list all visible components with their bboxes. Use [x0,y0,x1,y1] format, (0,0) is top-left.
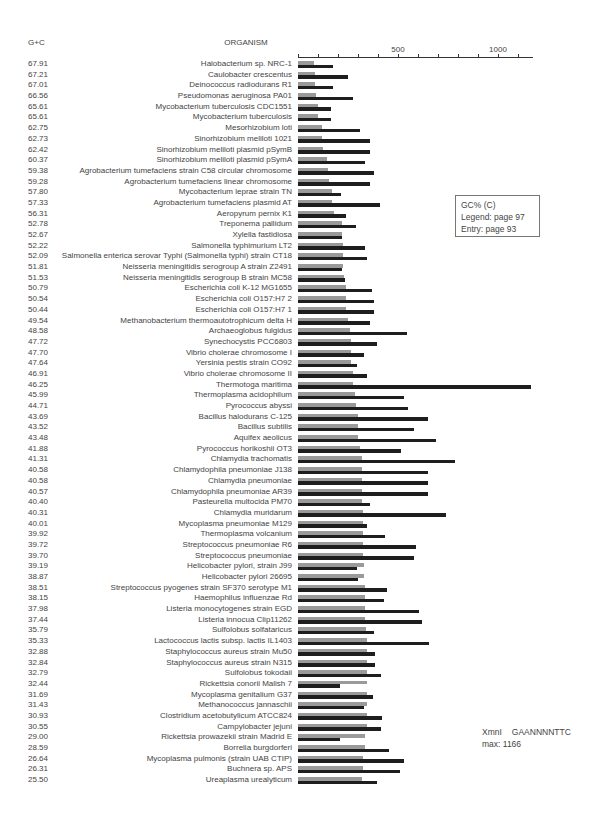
organism-name: Sinorhizobium meliloti 1021 [194,134,292,144]
organism-name: Sinorhizobium meliloti plasmid pSymA [156,155,292,165]
gc-value: 47.64 [28,358,48,368]
gc-value: 40.31 [28,508,48,518]
gc-value: 47.72 [28,337,48,347]
chart-row: 52.09Salmonella enterica serovar Typhi (… [0,251,605,262]
organism-name: Agrobacterium tumefaciens plasmid AT [153,198,292,208]
black-bar [298,749,389,753]
chart-row: 65.61Mycobacterium tuberculosis [0,112,605,123]
organism-name: Chlamydophila pneumoniae J138 [173,465,292,475]
gc-value: 35.79 [28,625,48,635]
max-value: max: 1166 [482,738,571,750]
chart-row: 32.88Staphylococcus aureus strain Mu50 [0,647,605,658]
black-bar [298,300,374,304]
chart-row: 32.44Rickettsia conorii Malish 7 [0,679,605,690]
black-bar [298,770,400,774]
organism-name: Thermoplasma volcanium [200,529,292,539]
organism-name: Yersinia pestis strain CO92 [196,358,292,368]
chart-row: 60.37Sinorhizobium meliloti plasmid pSym… [0,155,605,166]
chart-row: 26.64Mycoplasma pulmonis (strain UAB CTI… [0,754,605,765]
organism-name: Mesorhizobium loti [225,123,292,133]
gc-value: 67.01 [28,80,48,90]
organism-name: Caulobacter crescentus [208,70,292,80]
chart-row: 67.01Deinococcus radiodurans R1 [0,80,605,91]
axis-tick-label: 1000 [489,45,507,54]
black-bar [298,727,381,731]
black-bar [298,567,357,571]
organism-name: Xylella fastidiosa [232,230,292,240]
gc-value: 26.31 [28,764,48,774]
recognition-site: GAANNNNTTC [512,727,571,737]
organism-name: Helicobacter pylori, strain J99 [187,561,292,571]
organism-name: Haemophilus influenzae Rd [194,593,292,603]
organism-name: Rickettsia conorii Malish 7 [200,679,292,689]
black-bar [298,439,436,443]
chart-row: 39.19Helicobacter pylori, strain J99 [0,561,605,572]
chart-row: 62.42Sinorhizobium meliloti plasmid pSym… [0,145,605,156]
chart-row: 51.53Neisseria meningitidis serogroup B … [0,273,605,284]
black-bar [298,610,419,614]
organism-name: Archaeoglobus fulgidus [209,326,292,336]
chart-row: 30.93Clostridium acetobutylicum ATCC824 [0,711,605,722]
axis-tick [338,54,339,57]
chart-row: 40.57Chlamydophila pneumoniae AR39 [0,487,605,498]
black-bar [298,407,408,411]
black-bar [298,556,414,560]
organism-name: Staphylococcus aureus strain Mu50 [165,647,292,657]
axis-tick [478,54,479,57]
organism-name: Mycoplasma pulmonis (strain UAB CTIP) [147,754,292,764]
chart-row: 59.28Agrobacterium tumefaciens linear ch… [0,177,605,188]
gc-value: 29.00 [28,732,48,742]
chart-row: 52.22Salmonella typhimurium LT2 [0,241,605,252]
gc-value: 65.61 [28,112,48,122]
gc-value: 26.64 [28,754,48,764]
black-bar [298,385,531,389]
organism-name: Neisseria meningitidis serogroup A strai… [123,262,292,272]
axis-tick [458,54,459,57]
organism-name: Streptococcus pneumoniae [195,551,292,561]
black-bar [298,86,333,90]
chart-row: 46.25Thermotoga maritima [0,380,605,391]
black-bar [298,65,333,69]
chart-row: 40.58Chlamydophila pneumoniae J138 [0,465,605,476]
chart-rows: 67.91Halobacterium sp. NRC-167.21Cauloba… [0,59,605,786]
black-bar [298,716,382,720]
black-bar [298,161,365,165]
gc-value: 28.59 [28,743,48,753]
black-bar [298,492,428,496]
gc-value: 52.67 [28,230,48,240]
organism-name: Streptococcus pneumoniae R6 [183,540,292,550]
chart-row: 31.43Methanococcus jannaschii [0,700,605,711]
organism-name: Sulfolobus tokodaii [225,668,292,678]
chart-row: 50.54Escherichia coli O157:H7 2 [0,294,605,305]
gc-value: 40.57 [28,487,48,497]
black-bar [298,652,375,656]
black-bar [298,342,377,346]
gc-value: 38.15 [28,593,48,603]
organism-name: Rickettsia prowazekii strain Madrid E [161,732,292,742]
black-bar [298,321,370,325]
gc-value: 67.21 [28,70,48,80]
black-bar [298,471,428,475]
gc-value: 32.44 [28,679,48,689]
gc-value: 49.54 [28,316,48,326]
chart-row: 59.38Agrobacterium tumefaciens strain C5… [0,166,605,177]
organism-name: Mycobacterium tuberculosis CDC1551 [156,102,293,112]
chart-row: 50.44Escherichia coli O157:H7 1 [0,305,605,316]
axis-tick [398,54,399,57]
gc-value: 43.48 [28,433,48,443]
gc-value: 51.53 [28,273,48,283]
chart-row: 50.79Escherichia coli K-12 MG1655 [0,283,605,294]
gc-value: 51.81 [28,262,48,272]
axis-tick [378,54,379,57]
organism-name: Mycobacterium tuberculosis [193,112,292,122]
organism-name: Escherichia coli O157:H7 2 [196,294,293,304]
organism-name: Listeria innocua Clip11262 [198,615,292,625]
black-bar [298,599,384,603]
gc-value: 62.75 [28,123,48,133]
chart-row: 49.54Methanobacterium thermoautotrophicu… [0,316,605,327]
chart-row: 31.69Mycoplasma genitalium G37 [0,690,605,701]
chart-row: 67.91Halobacterium sp. NRC-1 [0,59,605,70]
gc-value: 39.72 [28,540,48,550]
organism-name: Sulfolobus solfataricus [212,625,292,635]
organism-name: Salmonella typhimurium LT2 [191,241,292,251]
